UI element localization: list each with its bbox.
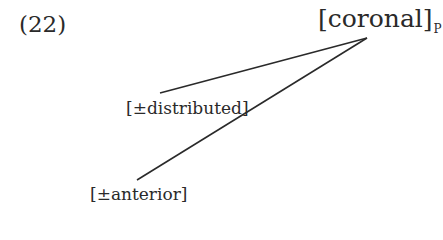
branch-line-distributed [160, 38, 367, 93]
child-node-anterior: [±anterior] [90, 186, 187, 203]
child-node-distributed: [±distributed] [126, 100, 249, 117]
